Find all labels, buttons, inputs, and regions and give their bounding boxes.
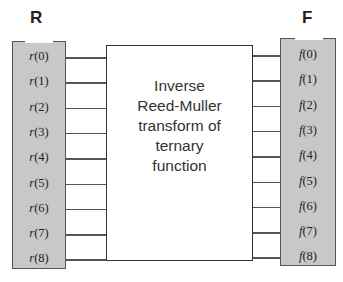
- index: (7): [302, 224, 317, 238]
- right-connector-line: [253, 232, 280, 234]
- right-column-f: f(0)f(1)f(2)f(3)f(4)f(5)f(6)f(7)f(8): [280, 38, 336, 266]
- transform-label-line: ternary: [107, 136, 252, 156]
- index: (5): [34, 176, 49, 190]
- index: (3): [34, 125, 49, 139]
- index: (1): [34, 74, 49, 88]
- right-item: f(4): [281, 145, 335, 165]
- index: (5): [302, 174, 317, 188]
- right-item: f(7): [281, 221, 335, 241]
- left-item: r(7): [13, 223, 65, 243]
- index: (6): [302, 199, 317, 213]
- left-connector-line: [66, 184, 106, 186]
- index: (4): [34, 150, 49, 164]
- left-item: r(3): [13, 122, 65, 142]
- index: (8): [302, 249, 317, 263]
- index: (1): [302, 72, 317, 86]
- transform-label-line: function: [107, 156, 252, 176]
- index: (4): [302, 148, 317, 162]
- right-item: f(2): [281, 95, 335, 115]
- left-connector-line: [66, 158, 106, 160]
- left-connector-line: [66, 234, 106, 236]
- transform-box: Inverse Reed-Muller transform of ternary…: [106, 45, 253, 261]
- right-item: f(5): [281, 171, 335, 191]
- right-connector-line: [253, 207, 280, 209]
- right-connector-line: [253, 80, 280, 82]
- left-item: r(8): [13, 248, 65, 268]
- left-connector-line: [66, 57, 106, 59]
- right-item: f(3): [281, 120, 335, 140]
- index: (2): [302, 98, 317, 112]
- left-connector-line: [66, 259, 106, 261]
- left-column-title: R: [30, 8, 42, 28]
- transform-label-line: transform of: [107, 116, 252, 136]
- right-connector-line: [253, 131, 280, 133]
- left-connector-line: [66, 82, 106, 84]
- left-item: r(6): [13, 198, 65, 218]
- index: (0): [302, 47, 317, 61]
- transform-label-line: Reed-Muller: [107, 96, 252, 116]
- transform-label-line: Inverse: [107, 76, 252, 96]
- left-connector-line: [66, 133, 106, 135]
- index: (3): [302, 123, 317, 137]
- right-column-title: F: [302, 8, 312, 28]
- index: (2): [34, 100, 49, 114]
- right-item: f(0): [281, 44, 335, 64]
- left-item: r(2): [13, 97, 65, 117]
- right-item: f(1): [281, 69, 335, 89]
- left-column-r: r(0)r(1)r(2)r(3)r(4)r(5)r(6)r(7)r(8): [12, 41, 66, 269]
- left-connector-line: [66, 108, 106, 110]
- right-connector-line: [253, 182, 280, 184]
- left-connector-line: [66, 209, 106, 211]
- index: (6): [34, 201, 49, 215]
- right-connector-line: [253, 55, 280, 57]
- right-item: f(6): [281, 196, 335, 216]
- index: (0): [34, 49, 49, 63]
- left-item: r(5): [13, 173, 65, 193]
- left-item: r(4): [13, 147, 65, 167]
- right-connector-line: [253, 106, 280, 108]
- left-item: r(1): [13, 71, 65, 91]
- right-connector-line: [253, 156, 280, 158]
- left-item: r(0): [13, 46, 65, 66]
- index: (8): [34, 251, 49, 265]
- index: (7): [34, 226, 49, 240]
- right-item: f(8): [281, 246, 335, 266]
- right-connector-line: [253, 257, 280, 259]
- transform-label: Inverse Reed-Muller transform of ternary…: [107, 76, 252, 176]
